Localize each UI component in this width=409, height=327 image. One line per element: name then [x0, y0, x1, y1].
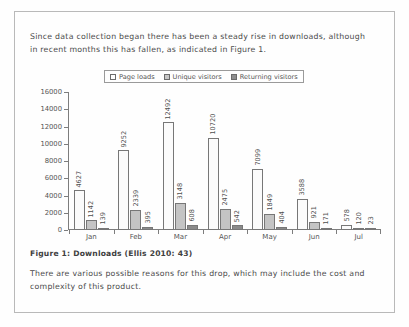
- bar-value-label: 608: [190, 209, 197, 222]
- y-axis-tick-label: 8000: [45, 157, 62, 165]
- y-axis-tick-mark: [64, 92, 68, 93]
- bar[interactable]: 404: [276, 227, 287, 230]
- bar[interactable]: 2339: [130, 210, 141, 230]
- legend-item-2: Returning visitors: [231, 73, 298, 81]
- y-axis-tick-label: 16000: [40, 88, 62, 96]
- x-axis-tick-label: May: [247, 233, 292, 241]
- bar-column: 3148: [175, 92, 186, 230]
- bar[interactable]: 1142: [86, 220, 97, 230]
- x-axis-tick-label: Jun: [292, 233, 337, 241]
- bar-value-label: 3148: [178, 183, 185, 200]
- bar-column: 921: [309, 92, 320, 230]
- bar[interactable]: 1849: [264, 214, 275, 230]
- legend-item-1: Unique visitors: [164, 73, 222, 81]
- bar-column: 1849: [264, 92, 275, 230]
- bar-column: 4627: [74, 92, 85, 230]
- bar[interactable]: 4627: [74, 190, 85, 230]
- y-axis-tick-mark: [64, 196, 68, 197]
- bar[interactable]: 23: [365, 228, 376, 230]
- bar-value-label: 542: [234, 210, 241, 223]
- bar[interactable]: 608: [187, 225, 198, 230]
- y-axis-tick-mark: [64, 109, 68, 110]
- bar-value-label: 921: [312, 206, 319, 219]
- figure-caption: Figure 1: Downloads (Ellis 2010: 43): [30, 249, 192, 258]
- bar-column: 395: [142, 92, 153, 230]
- bar-value-label: 171: [324, 212, 331, 225]
- bar-column: 542: [232, 92, 243, 230]
- legend-swatch-icon: [164, 74, 170, 80]
- bar-group: 92522339395: [114, 92, 159, 230]
- bar[interactable]: 578: [341, 225, 352, 230]
- y-axis-tick-mark: [64, 230, 68, 231]
- bar[interactable]: 12492: [163, 122, 174, 230]
- bar-column: 7099: [252, 92, 263, 230]
- x-axis-tick-label: Mar: [158, 233, 203, 241]
- bar-value-label: 139: [101, 212, 108, 225]
- bar-group: 124923148608: [158, 92, 203, 230]
- bar-column: 9252: [118, 92, 129, 230]
- y-axis-tick-labels: 0200040006000800010000120001400016000: [21, 92, 65, 230]
- page-root: Since data collection began there has be…: [0, 0, 409, 327]
- bar-value-label: 404: [279, 211, 286, 224]
- bar-column: 171: [321, 92, 332, 230]
- bar[interactable]: 395: [142, 227, 153, 230]
- bar-value-label: 3588: [300, 179, 307, 196]
- bar-column: 10720: [208, 92, 219, 230]
- legend-swatch-icon: [110, 74, 116, 80]
- bar-value-label: 2339: [133, 190, 140, 207]
- x-axis-tick-label: Jul: [336, 233, 381, 241]
- y-axis-tick-label: 6000: [45, 174, 62, 182]
- bar-value-label: 9252: [121, 130, 128, 147]
- bar-value-label: 1142: [89, 200, 96, 217]
- bar[interactable]: 2475: [220, 209, 231, 230]
- bar-value-label: 578: [344, 209, 351, 222]
- intro-paragraph: Since data collection began there has be…: [30, 30, 375, 56]
- bar[interactable]: 139: [98, 228, 109, 230]
- y-axis-tick-mark: [64, 127, 68, 128]
- legend-item-label: Returning visitors: [240, 73, 298, 81]
- bar-value-label: 2475: [222, 189, 229, 206]
- bar-column: 2475: [220, 92, 231, 230]
- bar[interactable]: 3148: [175, 203, 186, 230]
- bar[interactable]: 542: [232, 225, 243, 230]
- y-axis-tick-label: 14000: [40, 105, 62, 113]
- bar[interactable]: 7099: [252, 169, 263, 230]
- legend-item-0: Page loads: [110, 73, 155, 81]
- bar-groups: 4627114213992522339395124923148608107202…: [69, 92, 381, 230]
- x-axis-tick-label: Feb: [114, 233, 159, 241]
- bar[interactable]: 120: [353, 228, 364, 230]
- x-axis-tick-label: Apr: [203, 233, 248, 241]
- legend-item-label: Unique visitors: [173, 73, 222, 81]
- bar-group: 3588921171: [292, 92, 337, 230]
- bar[interactable]: 10720: [208, 138, 219, 230]
- bar-column: 12492: [163, 92, 174, 230]
- bar-value-label: 10720: [210, 114, 217, 135]
- y-axis-tick-mark: [64, 178, 68, 179]
- y-axis-tick-mark: [64, 161, 68, 162]
- closing-paragraph: There are various possible reasons for t…: [30, 267, 375, 293]
- bar-value-label: 12492: [166, 98, 173, 119]
- bar-value-label: 120: [356, 212, 363, 225]
- bar-column: 578: [341, 92, 352, 230]
- bar-group: 46271142139: [69, 92, 114, 230]
- legend-swatch-icon: [231, 74, 237, 80]
- bar-value-label: 23: [368, 217, 375, 225]
- y-axis-tick-label: 2000: [45, 209, 62, 217]
- bar[interactable]: 171: [321, 228, 332, 230]
- bar-group: 57812023: [336, 92, 381, 230]
- bar-column: 608: [187, 92, 198, 230]
- bar[interactable]: 9252: [118, 150, 129, 230]
- bar-value-label: 395: [145, 211, 152, 224]
- bar-column: 404: [276, 92, 287, 230]
- downloads-bar-chart: Page loadsUnique visitorsReturning visit…: [21, 70, 391, 248]
- bar-group: 70991849404: [247, 92, 292, 230]
- y-axis-tick-mark: [64, 144, 68, 145]
- bar[interactable]: 3588: [297, 199, 308, 230]
- y-axis-tick-mark: [64, 213, 68, 214]
- bar-column: 23: [365, 92, 376, 230]
- document-page-frame: Since data collection began there has be…: [14, 11, 395, 313]
- bar-value-label: 7099: [255, 149, 262, 166]
- y-axis-tick-label: 10000: [40, 140, 62, 148]
- bar[interactable]: 921: [309, 222, 320, 230]
- bar-column: 139: [98, 92, 109, 230]
